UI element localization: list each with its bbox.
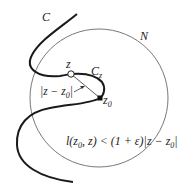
label-inequality: l(z0, z) < (1 + ε)|z − z0|: [66, 134, 178, 150]
label-point-z0: z0: [102, 93, 112, 109]
diagram-canvas: C N z Cz z0 |z − z0| l(z0, z) < (1 + ε)|…: [0, 0, 194, 195]
label-neighborhood-n: N: [139, 29, 149, 43]
label-distance: |z − z0|: [40, 85, 73, 100]
point-z-marker: [68, 71, 74, 77]
label-curve-c: C: [42, 10, 51, 24]
label-point-z: z: [65, 57, 71, 71]
label-sub-arc: Cz: [91, 64, 103, 80]
point-z0-marker: [98, 96, 103, 101]
